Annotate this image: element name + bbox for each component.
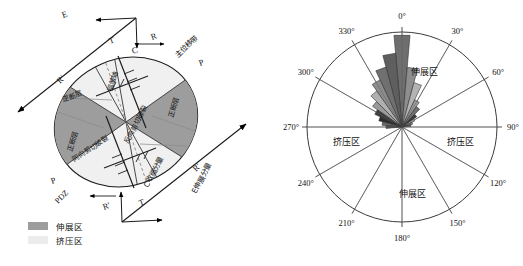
zone-label-compression-right: 挤压区 [447,136,474,147]
rose-tick-210 [352,209,355,213]
c-component-arrow-bottom [121,192,122,222]
rose-tick-label-270: 270° [283,122,299,132]
label-e-axis: E [60,9,68,20]
label-t-upper: T [107,34,116,45]
e-component-arrow-top [96,18,136,20]
zone-label-extension-bottom: 伸展区 [399,188,426,199]
rose-tick-120 [484,175,488,178]
figure-root: E C R' R' R R' T T P P PDZ 主位移带 C收缩分量 E伸… [0,0,523,266]
label-t-lower: T [137,196,146,207]
rose-tick-150 [450,209,453,213]
rose-tick-label-120: 120° [490,178,506,188]
rose-tick-label-210: 210° [338,218,354,228]
rose-tick-label-240: 240° [298,178,314,188]
rose-tick-240 [315,175,319,178]
strain-ellipse-panel: E C R' R' R R' T T P P PDZ 主位移带 C收缩分量 E伸… [0,0,262,266]
rose-tick-label-90: 90° [507,122,519,132]
label-pdz: PDZ [53,188,70,205]
label-r-upper: R [149,30,158,41]
rose-tick-label-150: 150° [449,218,465,228]
rose-tick-330 [352,40,355,44]
rose-tick-label-300: 300° [298,67,314,77]
rose-tick-label-60: 60° [492,67,504,77]
label-p-upper: P [197,57,205,68]
zone-label-extension-top: 伸展区 [411,66,438,77]
label-p-lower: P [49,175,57,186]
label-principal-displacement-zone: 主位移带 [173,32,201,59]
legend-label-compression: 挤压区 [56,236,83,246]
legend-swatch-compression [28,236,48,244]
c-component-arrow-top [136,18,137,48]
rose-tick-30 [450,40,453,44]
rose-diagram-svg: 0°30°60°90°120°150°180°210°240°270°300°3… [262,0,523,266]
rose-diagram-panel: 0°30°60°90°120°150°180°210°240°270°300°3… [262,0,523,266]
rose-tick-label-180: 180° [394,233,410,243]
rose-tick-label-0: 0° [398,11,406,21]
zone-label-compression-left: 挤压区 [333,136,360,147]
rose-tick-60 [484,77,488,80]
rose-chart: 0°30°60°90°120°150°180°210°240°270°300°3… [283,11,519,243]
e-component-arrow-bottom [122,220,162,222]
strain-ellipse-svg: E C R' R' R R' T T P P PDZ 主位移带 C收缩分量 E伸… [0,0,262,266]
label-c-axis: C [130,44,139,55]
rose-tick-label-330: 330° [338,26,354,36]
legend: 伸展区 挤压区 [28,222,83,246]
legend-label-extension: 伸展区 [56,222,83,232]
rose-tick-label-30: 30° [452,26,464,36]
label-r-lower: R' [101,200,112,212]
legend-swatch-extension [28,222,48,230]
rose-tick-300 [315,77,319,80]
